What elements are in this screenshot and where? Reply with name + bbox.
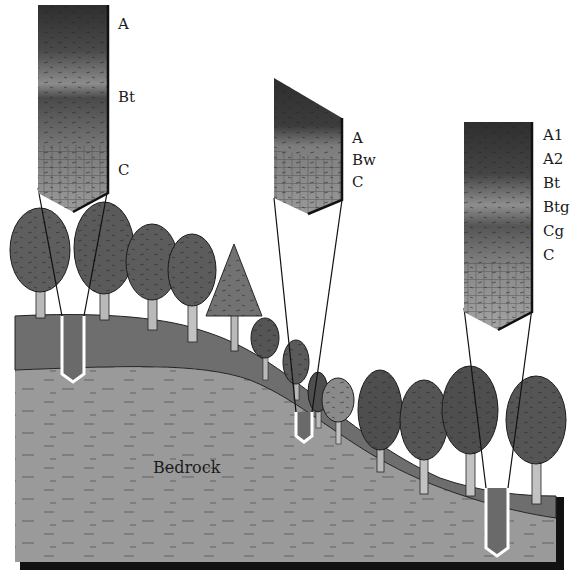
horizon-label: A1 [543, 128, 563, 143]
soil-pit-backslope [296, 412, 312, 442]
tree [442, 366, 498, 496]
horizon-label: A [118, 17, 129, 32]
horizon-label: Bt [118, 90, 135, 105]
horizon-label: Cg [543, 224, 564, 239]
horizon-label: Btg [543, 200, 570, 215]
soil-pit-summit [62, 316, 84, 382]
horizon-label: A [352, 131, 363, 146]
horizon-label: C [118, 163, 129, 178]
horizon-label: C [543, 248, 554, 263]
bedrock-label: Bedrock [153, 458, 220, 477]
horizon-label: C [352, 175, 363, 190]
horizon-label: Bw [352, 153, 376, 168]
soil-catena-diagram [0, 0, 578, 585]
horizon-label: A2 [543, 152, 563, 167]
horizon-label: Bt [543, 176, 560, 191]
soil-pit-toeslope [486, 488, 508, 556]
tree [10, 208, 70, 318]
tree [74, 202, 134, 320]
